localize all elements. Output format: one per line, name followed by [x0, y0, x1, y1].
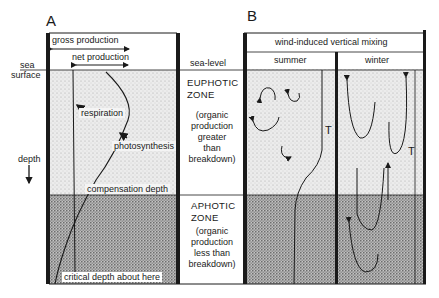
aphotic-desc-line: less than — [182, 248, 242, 259]
winter-thermocline-label: T — [408, 146, 415, 156]
euphotic-desc-line: than — [182, 143, 242, 154]
sea-surface-label-1: sea — [20, 60, 35, 70]
aphotic-desc-line: breakdown) — [182, 259, 242, 270]
aphotic-desc-line: (organic — [182, 226, 242, 237]
respiration-label: respiration — [79, 108, 125, 118]
net-production-label: net production — [72, 52, 129, 62]
euphotic-desc-line: production — [182, 121, 242, 132]
sea-level-label: sea-level — [190, 58, 226, 68]
panel-b-letter: B — [247, 8, 257, 24]
euphotic-desc-line: breakdown) — [182, 154, 242, 165]
aphotic-desc-line: production — [182, 237, 242, 248]
gross-production-label: gross production — [52, 35, 119, 45]
summer-label: summer — [274, 55, 307, 65]
euphotic-zone-title-2: ZONE — [187, 89, 215, 100]
euphotic-region-a — [49, 70, 177, 195]
frame-middle-right — [243, 33, 247, 284]
euphotic-desc-line: (organic — [182, 110, 242, 121]
euphotic-desc-line: greater — [182, 132, 242, 143]
frame-b-divider — [335, 52, 338, 284]
frame-left — [46, 33, 50, 284]
aphotic-zone-title-2: ZONE — [191, 212, 219, 223]
critical-depth-label: critical depth about here — [62, 272, 162, 282]
euphotic-zone-title-1: EUPHOTIC — [187, 77, 239, 88]
vertical-mixing-header: wind-induced vertical mixing — [275, 37, 388, 47]
panel-a-letter: A — [46, 13, 56, 29]
aphotic-zone-title-1: APHOTIC — [191, 200, 235, 211]
photosynthesis-label: photosynthesis — [112, 141, 176, 151]
winter-label: winter — [365, 55, 389, 65]
summer-thermocline-label: T — [325, 125, 332, 135]
frame-right — [423, 30, 426, 284]
compensation-depth-label: compensation depth — [85, 184, 170, 194]
aphotic-zone-description: (organic production less than breakdown) — [182, 226, 242, 270]
sea-surface-label-2: surface — [11, 70, 41, 80]
euphotic-zone-description: (organic production greater than breakdo… — [182, 110, 242, 165]
depth-label: depth — [18, 154, 41, 164]
frame-middle-left — [176, 33, 180, 284]
